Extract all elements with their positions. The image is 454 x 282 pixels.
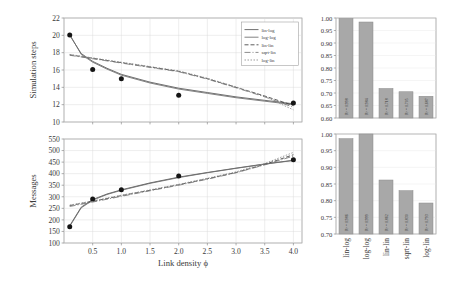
legend-label-lin-log: lin-log [262,28,276,33]
bar-value-label: R² = 0.687 [425,98,429,115]
bar-category-label: lin-lin [382,238,391,256]
y-tick-label: 0.95 [321,147,333,154]
y-axis-label: Simulation steps [28,41,38,99]
y-tick-label: 100 [48,239,60,248]
x-tick-label: 3.5 [260,247,270,256]
y-tick-label: 0.90 [321,164,333,171]
y-tick-label: 550 [48,135,60,144]
panel-r2-messages: 0.700.750.800.850.900.951.00R² = 0.986li… [321,131,436,260]
y-tick-label: 0.70 [321,90,333,97]
y-tick-label: 350 [48,181,60,190]
panel-messages: 1001502002503003504004505005500.51.01.52… [28,135,302,268]
y-tick-label: 0.70 [321,231,333,238]
y-tick-label: 0.85 [321,52,333,59]
x-tick-label: 2.5 [203,247,213,256]
y-tick-label: 400 [48,169,60,178]
x-tick-label: 1.0 [117,247,127,256]
y-tick-label: 300 [48,193,60,202]
y-tick-label: 0.75 [321,77,333,84]
y-tick-label: 0.95 [321,27,333,34]
y-tick-label: 16 [52,66,60,75]
y-tick-label: 0.80 [321,65,333,72]
bar-value-label: R² = 0.984 [365,98,369,115]
bar-category-label: lin-log [342,238,351,258]
data-point [119,187,124,192]
y-tick-label: 200 [48,216,60,225]
x-tick-label: 2.0 [174,247,184,256]
y-tick-label: 0.80 [321,197,333,204]
x-tick-label: 4.0 [289,247,299,256]
bar-value-label: R² = 0.705 [405,98,409,115]
y-tick-label: 0.65 [321,102,333,109]
bar-value-label: R² = 0.830 [405,214,409,231]
legend-label-sqrt-lin: sqrt-lin [262,50,277,55]
bar-category-label: sqrt-lin [402,238,411,260]
data-point [90,67,95,72]
y-tick-label: 14 [52,83,60,92]
data-point [119,76,124,81]
plot-frame [64,139,302,243]
y-tick-label: 20 [52,31,60,40]
bar-value-label: R² = 0.718 [385,98,389,115]
figure-canvas: 10121416182022Simulation stepslin-loglog… [0,0,454,282]
data-point [176,93,181,98]
y-tick-label: 0.90 [321,40,333,47]
multi-panel-figure: 10121416182022Simulation stepslin-loglog… [0,0,454,282]
y-tick-label: 250 [48,204,60,213]
data-point [176,173,181,178]
bar-value-label: R² = 0.793 [425,214,429,231]
bar-value-label: R² = 0.986 [345,214,349,231]
y-tick-label: 1.00 [321,15,333,22]
x-tick-label: 0.5 [88,247,98,256]
bar-category-label: log-lin [422,238,431,258]
bar-value-label: R² = 0.999 [365,214,369,231]
y-tick-label: 0.75 [321,214,333,221]
panel-r2-simulation-steps: 0.600.650.700.750.800.850.900.951.00R² =… [321,15,436,122]
bar-value-label: R² = 0.998 [345,98,349,115]
legend-label-log-log: log-log [262,35,277,40]
x-tick-label: 3.0 [231,247,241,256]
y-tick-label: 22 [52,14,60,23]
y-tick-label: 500 [48,146,60,155]
y-tick-label: 12 [52,100,60,109]
data-point [67,224,72,229]
x-tick-label: 1.5 [145,247,155,256]
y-tick-label: 18 [52,48,60,57]
data-point [291,100,296,105]
bar-value-label: R² = 0.862 [385,214,389,231]
bar-category-label: log-log [362,238,371,260]
y-tick-label: 10 [52,118,60,127]
data-point [67,32,72,37]
y-tick-label: 1.00 [321,131,333,138]
data-point [291,157,296,162]
legend-label-log-lin: log-lin [262,58,276,63]
data-point [90,197,95,202]
y-tick-label: 150 [48,227,60,236]
y-axis-label: Messages [28,174,38,208]
legend-label-lin-lin: lin-lin [262,43,275,48]
y-tick-label: 0.60 [321,115,333,122]
y-tick-label: 0.85 [321,181,333,188]
x-axis-label: Link density ϕ [158,258,208,268]
panel-simulation-steps: 10121416182022Simulation stepslin-loglog… [28,14,302,127]
y-tick-label: 450 [48,158,60,167]
